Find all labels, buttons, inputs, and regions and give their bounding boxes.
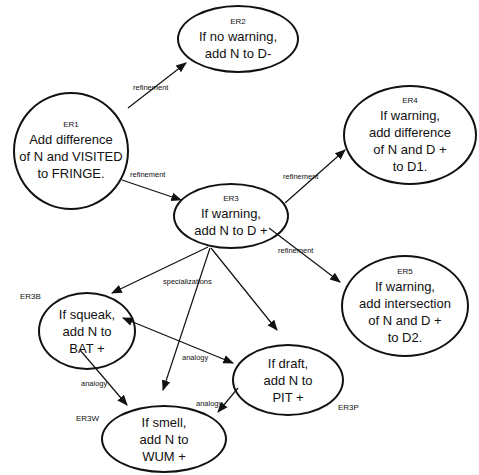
node-text-line: If smell,: [142, 414, 187, 431]
node-text-line: add difference: [369, 124, 451, 141]
node-er3p: If draft, add N to PIT +: [232, 344, 344, 416]
node-id-er3w: ER3W: [76, 414, 99, 423]
node-id: ER2: [230, 17, 246, 26]
node-text-line: add intersection: [359, 295, 451, 312]
edge-er1-er3: [122, 180, 181, 200]
edge-er3-er3w: [163, 248, 210, 390]
node-text-line: of N and D +: [368, 312, 441, 329]
edge-label-er1-er3: refinement: [130, 170, 165, 179]
edge-er3-er5: [269, 228, 340, 282]
node-er3b: If squeak, add N to BAT +: [38, 292, 136, 370]
node-text-line: of N and D +: [373, 141, 446, 158]
node-text-line: If warning,: [380, 107, 440, 124]
node-id: ER4: [402, 96, 418, 105]
node-text-line: add N to D +: [194, 222, 267, 239]
node-text-line: add N to: [62, 323, 111, 340]
node-text-line: If draft,: [268, 355, 308, 372]
edge-label-er1-er2: refinement: [133, 83, 168, 92]
node-er3: ER3 If warning, add N to D +: [173, 183, 289, 249]
node-id: ER5: [397, 267, 413, 276]
node-text-line: to D2.: [388, 329, 423, 346]
node-text-line: add N to D-: [205, 45, 271, 62]
node-er3w: If smell, add N to WUM +: [101, 405, 227, 473]
node-id: ER3: [223, 194, 239, 203]
node-text-line: to FRINGE.: [37, 165, 104, 182]
edge-label-er3-er4: refinement: [283, 172, 318, 181]
edge-label-er3-er5: refinement: [278, 246, 313, 255]
node-text-line: Add difference: [29, 131, 113, 148]
node-id: ER1: [63, 120, 79, 129]
node-text-line: add N to: [139, 431, 188, 448]
node-er5: ER5 If warning, add intersection of N an…: [341, 255, 469, 357]
node-text-line: If warning,: [201, 205, 261, 222]
edge-er3-er3b: [112, 247, 208, 293]
node-text-line: If warning,: [375, 278, 435, 295]
edge-label-er3b-er3w: analogy: [81, 379, 107, 388]
node-id-er3p: ER3P: [338, 403, 359, 412]
node-text-line: If squeak,: [59, 306, 115, 323]
node-er4: ER4 If warning, add difference of N and …: [343, 85, 477, 185]
edge-label-specializations: specializations: [163, 277, 212, 286]
edge-er3b-er3p: [123, 318, 233, 363]
node-text-line: add N to: [263, 372, 312, 389]
node-text-line: of N and VISITED: [19, 148, 122, 165]
node-er2: ER2 If no warning, add N to D-: [177, 5, 299, 73]
edge-label-er3b-er3p: analogy: [182, 353, 208, 362]
edge-label-er3p-er3w: analogy: [196, 399, 222, 408]
node-text-line: PIT +: [272, 389, 303, 406]
node-text-line: WUM +: [142, 448, 186, 465]
node-er1: ER1 Add difference of N and VISITED to F…: [13, 92, 129, 210]
node-text-line: If no warning,: [199, 28, 277, 45]
node-text-line: to D1.: [393, 158, 428, 175]
node-id-er3b: ER3B: [20, 292, 41, 301]
node-text-line: BAT +: [69, 340, 104, 357]
edge-er3-er3p: [211, 248, 277, 330]
